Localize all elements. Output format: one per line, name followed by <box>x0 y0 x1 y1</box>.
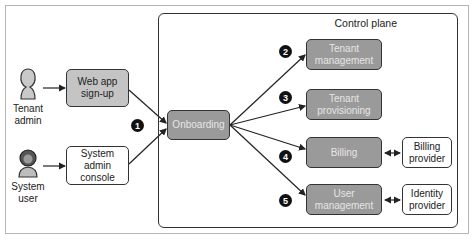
tenant-admin-icon <box>21 69 35 99</box>
control-plane-label: Control plane <box>335 17 397 29</box>
identity-provider-box: Identityprovider <box>402 184 452 215</box>
system-admin-console-box: System adminconsole <box>66 146 129 185</box>
user-management-box: Usermanagement <box>306 184 382 215</box>
billing-box: Billing <box>306 137 382 168</box>
tenant-management-box: Tenantmanagement <box>306 39 382 70</box>
system-user-label: System user <box>8 181 48 205</box>
tenant-admin-label: Tenant admin <box>8 103 48 127</box>
step-badge-5: 5 <box>279 194 292 207</box>
step-badge-3: 3 <box>279 91 292 104</box>
system-user-icon <box>19 150 37 177</box>
onboarding-box: Onboarding <box>167 110 230 140</box>
step-badge-1: 1 <box>131 119 144 132</box>
billing-provider-box: Billingprovider <box>402 137 452 168</box>
tenant-provisioning-box: Tenantprovisioning <box>306 89 382 120</box>
step-badge-4: 4 <box>279 150 292 163</box>
step-badge-2: 2 <box>279 45 292 58</box>
web-app-signup-box: Web appsign-up <box>66 69 129 107</box>
